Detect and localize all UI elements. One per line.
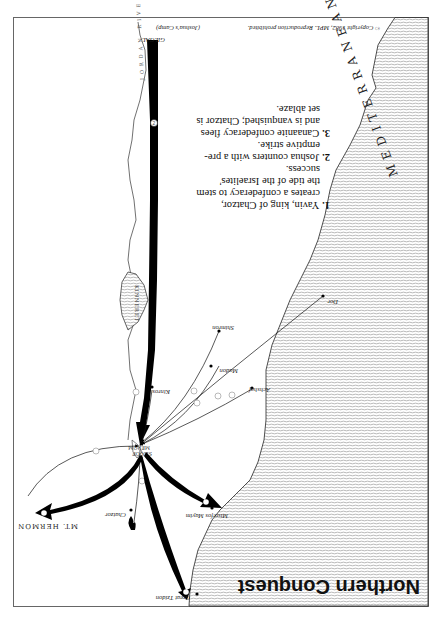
svg-text:2.Joshua counters with a pre-: 2.Joshua counters with a pre- xyxy=(204,152,330,163)
svg-text:3.Canaanite confederacy flees: 3.Canaanite confederacy flees xyxy=(201,128,330,139)
svg-text:2: 2 xyxy=(153,120,156,126)
northern-conquest-map: MEDITERRANEAN SEA JORDAN RIVER KINNERET … xyxy=(0,0,441,621)
place-dor: Dor xyxy=(327,299,339,306)
place-chatzor: Chatzor xyxy=(105,512,126,519)
map-title: Northern Conquest xyxy=(237,576,420,598)
gilgal-sublabel: (Joshua's Camp) xyxy=(156,24,200,32)
svg-text:success.: success. xyxy=(286,164,320,175)
kinneret-label: KINNERET xyxy=(134,285,140,322)
legend: 1.Yavin, king of Chatzor, creates a conf… xyxy=(196,104,330,211)
svg-text:1.Yavin, king of Chatzor,: 1.Yavin, king of Chatzor, xyxy=(221,200,330,211)
place-madon: Madon xyxy=(220,368,239,375)
svg-text:and is vanquished; Chatzor is: and is vanquished; Chatzor is xyxy=(196,116,320,127)
svg-text:emptive strike.: emptive strike. xyxy=(258,140,320,151)
svg-text:creates a confederacy to stem: creates a confederacy to stem xyxy=(196,188,320,199)
svg-text:the tide of the Israelites: the tide of the Israelites' xyxy=(219,176,320,187)
place-great-tzidon: Great Tzidon xyxy=(156,595,190,602)
place-kinros: Kinros xyxy=(152,389,171,396)
svg-text:set ablaze.: set ablaze. xyxy=(276,104,320,115)
gilgal-label: GILGAL xyxy=(142,37,165,44)
copyright: © Copyright 1982, MPL. Reproduction proh… xyxy=(247,25,380,32)
place-shimron: Shimron xyxy=(212,325,234,332)
place-misrefos-mayim: Misrefos Mayim xyxy=(186,513,229,520)
place-achshaf: Achshaf xyxy=(248,387,271,394)
mount-hermon-label: MT. HERMON xyxy=(17,522,78,530)
